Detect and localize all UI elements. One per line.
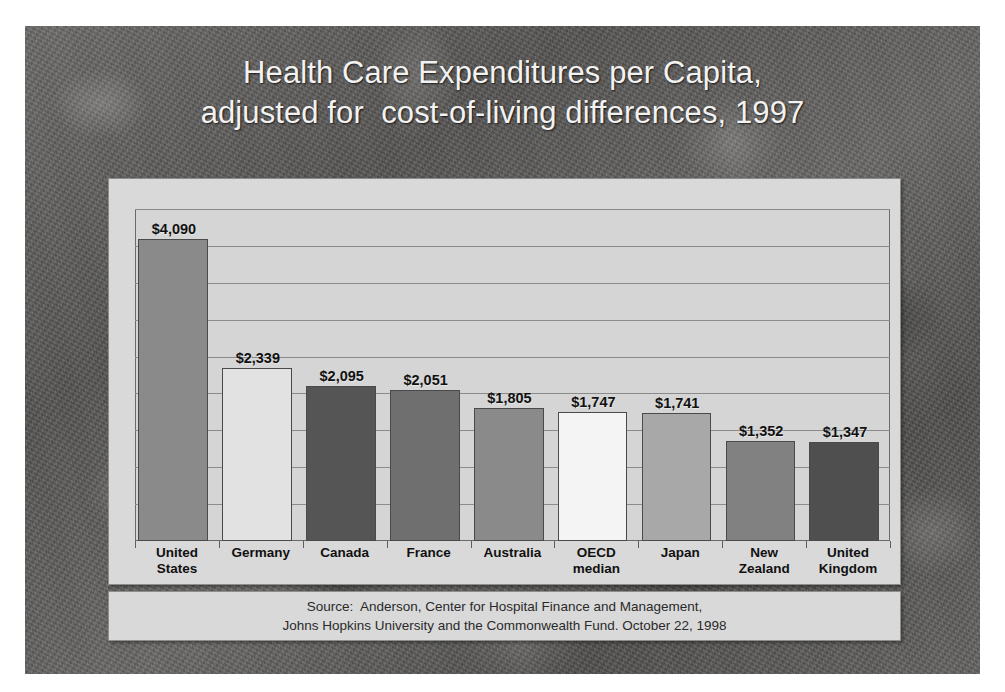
bar-value-label: $1,741 [635, 395, 719, 411]
bar[interactable] [474, 408, 544, 541]
category-label: France [387, 545, 471, 561]
category-label: United States [135, 545, 219, 577]
bar-value-label: $1,352 [719, 423, 803, 439]
chart-panel: $4,090$2,339$2,095$2,051$1,805$1,747$1,7… [108, 178, 901, 585]
source-line-2: Johns Hopkins University and the Commonw… [282, 616, 726, 635]
bar-value-label: $4,090 [132, 221, 216, 237]
category-label: New Zealand [722, 545, 806, 577]
x-axis-tick [890, 541, 891, 548]
category-label: Canada [303, 545, 387, 561]
page-title: Health Care Expenditures per Capita, adj… [25, 53, 980, 133]
bar-slot: $2,339 [219, 209, 303, 541]
bar-value-label: $1,805 [468, 390, 552, 406]
x-axis-category-labels: United StatesGermanyCanadaFranceAustrali… [135, 545, 890, 587]
category-label: Germany [219, 545, 303, 561]
bar[interactable] [809, 442, 879, 541]
bar-slot: $1,805 [471, 209, 555, 541]
bar-value-label: $2,339 [216, 350, 300, 366]
bar[interactable] [390, 390, 460, 541]
bar[interactable] [138, 239, 208, 541]
bar[interactable] [642, 413, 712, 541]
bar-value-label: $2,095 [300, 368, 384, 384]
category-label: Australia [471, 545, 555, 561]
category-label: Japan [638, 545, 722, 561]
bar-value-label: $1,347 [803, 424, 887, 440]
bar-slot: $2,051 [387, 209, 471, 541]
source-line-1: Source: Anderson, Center for Hospital Fi… [307, 597, 702, 616]
bar-chart-plot-area: $4,090$2,339$2,095$2,051$1,805$1,747$1,7… [135, 209, 890, 541]
category-label: United Kingdom [806, 545, 890, 577]
source-note-box: Source: Anderson, Center for Hospital Fi… [108, 591, 901, 641]
bar[interactable] [558, 412, 628, 541]
bar-value-label: $1,747 [551, 394, 635, 410]
title-line-2: adjusted for cost-of-living differences,… [201, 95, 805, 130]
category-label: OECD median [554, 545, 638, 577]
bar-slot: $1,747 [554, 209, 638, 541]
bar[interactable] [306, 386, 376, 541]
bar[interactable] [726, 441, 796, 541]
bar[interactable] [222, 368, 292, 541]
bar-slot: $1,347 [806, 209, 890, 541]
title-line-1: Health Care Expenditures per Capita, [243, 55, 762, 90]
bar-slot: $2,095 [303, 209, 387, 541]
bar-value-label: $2,051 [384, 372, 468, 388]
bar-slot: $4,090 [135, 209, 219, 541]
bar-slot: $1,741 [638, 209, 722, 541]
bar-slot: $1,352 [722, 209, 806, 541]
slide-background: Health Care Expenditures per Capita, adj… [25, 26, 980, 674]
